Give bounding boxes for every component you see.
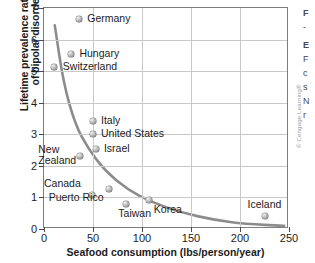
x-gridline	[240, 8, 241, 227]
x-gridline	[142, 8, 143, 227]
data-point-label-line2: Zealand	[38, 155, 76, 166]
y-axis-tick-label: 1	[31, 192, 37, 203]
page-edge-text-fragment: N	[303, 96, 315, 106]
data-point-marker	[77, 153, 84, 160]
data-point-marker	[90, 118, 97, 125]
x-gridline	[191, 8, 192, 227]
y-axis-tick	[39, 197, 44, 198]
data-point-label: Switzerland	[63, 61, 117, 73]
data-point-marker	[92, 145, 99, 152]
data-point-label: Taiwan	[118, 208, 151, 220]
data-point-label: Italy	[101, 115, 120, 127]
data-point-marker	[90, 130, 97, 137]
y-axis-tick	[39, 71, 44, 72]
data-point-label: Puerto Rico	[49, 192, 104, 204]
data-point-marker	[145, 196, 152, 203]
y-gridline	[44, 166, 287, 167]
data-point-marker	[105, 185, 112, 192]
y-axis-tick	[39, 229, 44, 230]
chart-figure: Lifetime prevalence rates (%) of bipolar…	[0, 0, 315, 263]
page-edge-text-fragment: E	[303, 40, 315, 50]
data-point-label: Korea	[154, 204, 182, 216]
page-edge-text-fragment: c	[303, 68, 315, 78]
page-edge-text-fragment: -	[303, 22, 315, 32]
page-edge-text-fragment: F	[303, 8, 315, 18]
credit-text: © Cengage Learning®	[296, 52, 302, 148]
data-point-label: Israel	[104, 143, 130, 155]
x-axis-tick-label: 100	[133, 233, 151, 244]
x-axis-tick-label: 50	[87, 233, 99, 244]
page-edge-text-fragment: F	[303, 54, 315, 64]
data-point-marker	[50, 64, 57, 71]
y-gridline	[44, 40, 287, 41]
data-point-marker	[76, 16, 83, 23]
y-axis-tick-label: 6	[31, 34, 37, 45]
y-axis-tick-label: 0	[31, 224, 37, 235]
y-axis-title-line1: Lifetime prevalence rates (%)	[19, 0, 31, 111]
y-axis-tick	[39, 103, 44, 104]
y-axis-tick-label: 7	[31, 3, 37, 14]
y-axis-tick-label: 4	[31, 97, 37, 108]
x-axis-tick-label: 250	[280, 233, 298, 244]
x-axis-tick-label: 0	[41, 233, 47, 244]
x-axis-tick-label: 150	[182, 233, 200, 244]
data-point-label: Iceland	[247, 199, 281, 211]
data-point-marker	[262, 213, 269, 220]
y-axis-tick	[39, 134, 44, 135]
y-axis-tick-label: 5	[31, 66, 37, 77]
page-edge-text-fragment: s	[303, 82, 315, 92]
data-point-label: Hungary	[79, 48, 119, 60]
y-gridline	[44, 103, 287, 104]
page-edge-text-fragment: r	[303, 110, 315, 120]
data-point-label: Canada	[44, 178, 81, 190]
y-axis-tick	[39, 40, 44, 41]
y-axis-tick-label: 2	[31, 160, 37, 171]
x-axis-tick-label: 200	[231, 233, 249, 244]
data-point-label: United States	[101, 128, 164, 140]
data-point-marker	[68, 51, 75, 58]
x-axis-title: Seafood consumption (lbs/person/year)	[43, 246, 288, 258]
plot-area: 05010015020025001234567GermanyHungarySwi…	[43, 7, 288, 228]
data-point-label: NewZealand	[38, 144, 76, 166]
data-point-label: Germany	[87, 13, 130, 25]
y-axis-tick	[39, 8, 44, 9]
y-axis-tick-label: 3	[31, 129, 37, 140]
y-gridline	[44, 134, 287, 135]
